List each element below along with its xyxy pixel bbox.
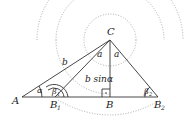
label-side-a-left: a bbox=[97, 49, 102, 59]
label-b-point: B bbox=[105, 99, 113, 110]
label-height: b sinα bbox=[85, 74, 113, 84]
label-c-point: C bbox=[107, 26, 115, 37]
label-b2-sub: 2 bbox=[160, 104, 165, 111]
label-alpha: α bbox=[37, 86, 43, 95]
ssa-triangle-diagram: A B 1 B B 2 C b a a b sinα α β 1 β 2 bbox=[0, 0, 189, 120]
right-angle-dot bbox=[105, 92, 107, 94]
diagram-canvas: A B 1 B B 2 C b a a b sinα α β 1 β 2 bbox=[0, 0, 189, 120]
label-side-a-right: a bbox=[114, 49, 119, 59]
label-beta2-sub: 2 bbox=[148, 91, 152, 97]
label-beta1-sub: 1 bbox=[57, 91, 60, 97]
label-a-point: A bbox=[11, 95, 19, 106]
label-side-b: b bbox=[62, 57, 68, 67]
label-b1-sub: 1 bbox=[57, 104, 61, 111]
